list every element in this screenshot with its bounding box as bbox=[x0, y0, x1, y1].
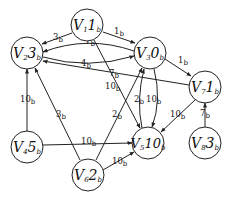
edge-label-v3-v7: 1b bbox=[178, 55, 188, 67]
node-v7: V71b bbox=[189, 71, 221, 103]
edge-label-v5-v3: 2b bbox=[134, 94, 144, 106]
node-v3: V30b bbox=[134, 37, 166, 69]
edge-label-v7-v2: 7b bbox=[109, 68, 119, 80]
edge-label-v1-v2: 3b bbox=[53, 32, 63, 44]
edge-label-v4-v2: 10b bbox=[20, 94, 36, 106]
node-v1: V11b bbox=[71, 9, 103, 41]
edge-label-v8-v7: 7b bbox=[200, 108, 210, 120]
node-v6: V62b bbox=[72, 159, 104, 191]
edge-label-v6-v2: 3b bbox=[56, 109, 66, 121]
node-v8: V83b bbox=[189, 127, 221, 159]
svg-text:V510b: V510b bbox=[131, 136, 166, 152]
edge-label-v3-v5: 10b bbox=[146, 94, 162, 106]
node-v4: V45b bbox=[11, 131, 43, 163]
edge-label-v2-v3: 4b bbox=[81, 58, 91, 70]
edge-labels: 3b 1b 1b 4b 7b 10b 1b 2b 10b 10b 7b 10b … bbox=[20, 26, 210, 168]
node-v5: V510b bbox=[131, 127, 166, 159]
node-v2: V23b bbox=[11, 37, 43, 69]
graph-diagram: 3b 1b 1b 4b 7b 10b 1b 2b 10b 10b 7b 10b … bbox=[0, 0, 234, 199]
edge-label-v1-v5: 10b bbox=[105, 81, 121, 93]
edge-label-v6-v5: 10b bbox=[112, 156, 128, 168]
edge-label-v4-v5: 10b bbox=[81, 136, 97, 148]
edges bbox=[27, 32, 205, 170]
